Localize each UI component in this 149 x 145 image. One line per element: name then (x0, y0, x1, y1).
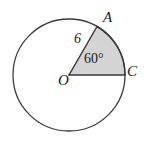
geometry-figure: A C O 6 60° (0, 0, 149, 145)
radius-measure-label: 6 (74, 32, 81, 46)
point-label-c: C (127, 64, 137, 79)
angle-measure-label: 60° (84, 52, 104, 66)
point-label-o: O (58, 73, 69, 88)
point-label-a: A (103, 10, 112, 25)
